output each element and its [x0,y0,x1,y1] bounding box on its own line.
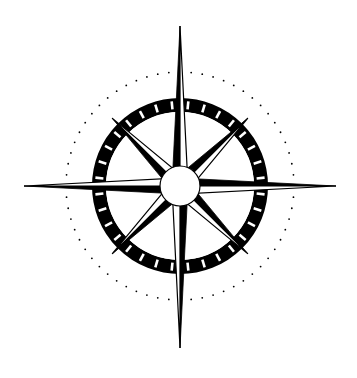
dot [267,113,269,115]
dot [190,299,192,301]
dot [260,266,262,268]
dot [168,72,170,74]
dot [157,73,159,75]
dot [98,104,100,106]
dot [233,85,235,87]
dot [91,113,93,115]
dot [212,76,214,78]
dot [288,218,290,220]
ring-tick [188,263,189,271]
dot [284,229,286,231]
dot [98,266,100,268]
dot [190,72,192,74]
dot [201,73,203,75]
dot [107,97,109,99]
hub-circle [160,166,200,206]
dot [267,257,269,259]
compass-rose-canvas: Compass rose [0,0,357,378]
dot [135,80,137,82]
dot [251,273,253,275]
dot [260,104,262,106]
dot [116,90,118,92]
dot [107,273,109,275]
dot [79,239,81,241]
dot [84,122,86,124]
dot [242,280,244,282]
ring-tick [172,263,173,271]
dot [291,163,293,165]
dot [74,229,76,231]
dot [212,294,214,296]
dot [66,196,68,198]
dot [70,152,72,154]
dot [79,131,81,133]
dot [223,80,225,82]
ring-tick [188,101,189,109]
dot [284,141,286,143]
dot [157,297,159,299]
dot [67,207,69,209]
dot [201,297,203,299]
dot [223,290,225,292]
ring-tick [172,101,173,109]
dot [274,122,276,124]
ring-tick [257,178,265,179]
dot [288,152,290,154]
dot [251,97,253,99]
dot [168,299,170,301]
dot [291,207,293,209]
dot [146,294,148,296]
dot [280,131,282,133]
compass-rose-icon [0,0,357,378]
dot [233,286,235,288]
ring-tick [95,178,103,179]
center-hub [160,166,200,206]
dot [91,257,93,259]
dot [293,174,295,176]
dot [67,163,69,165]
dot [280,239,282,241]
dot [74,141,76,143]
dot [70,218,72,220]
dot [84,248,86,250]
ring-tick [257,194,265,195]
dot [125,85,127,87]
dot [146,76,148,78]
dot [125,286,127,288]
dot [242,90,244,92]
dot [293,196,295,198]
ring-tick [95,194,103,195]
dot [274,248,276,250]
dot [66,174,68,176]
dot [116,280,118,282]
dot [135,290,137,292]
